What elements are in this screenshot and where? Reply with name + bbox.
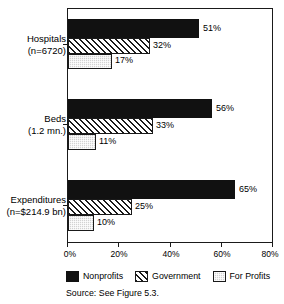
x-axis-tick-80 <box>272 243 273 247</box>
bar-value-beds-nonprofits: 56% <box>216 104 234 113</box>
x-axis-tick-60 <box>221 243 222 247</box>
legend-swatch-forprofits-icon <box>213 271 226 282</box>
category-label-line1: Expenditures <box>11 194 66 205</box>
bar-value-expenditures-forprofits: 10% <box>97 218 115 227</box>
category-label-line2: (n=$214.9 bn) <box>0 206 66 218</box>
bar-beds-forprofits <box>68 134 96 150</box>
bar-value-hospitals-government: 32% <box>153 41 171 50</box>
legend-label-government: Government <box>152 271 200 281</box>
category-label-line2: (n=6720) <box>0 45 66 57</box>
x-axis-tick-20 <box>118 243 119 247</box>
bar-value-beds-government: 33% <box>156 121 174 130</box>
category-label-expenditures: Expenditures (n=$214.9 bn) <box>0 194 66 217</box>
bar-value-beds-forprofits: 11% <box>99 137 116 146</box>
bar-value-expenditures-government: 25% <box>135 202 153 211</box>
chart-legend: Nonprofits Government For Profits <box>66 269 280 283</box>
category-label-hospitals: Hospitals (n=6720) <box>0 33 66 56</box>
bar-value-expenditures-nonprofits: 65% <box>239 185 257 194</box>
bar-value-hospitals-nonprofits: 51% <box>203 24 221 33</box>
legend-item-nonprofits: Nonprofits <box>66 271 123 282</box>
bar-beds-nonprofits <box>68 99 212 118</box>
bar-expenditures-forprofits <box>68 215 94 231</box>
x-axis-label-40: 40% <box>162 249 179 259</box>
category-label-line1: Beds <box>44 113 66 124</box>
source-note: Source: See Figure 5.3. <box>66 288 159 298</box>
legend-label-nonprofits: Nonprofits <box>83 271 123 281</box>
bar-beds-government <box>68 118 153 134</box>
legend-item-forprofits: For Profits <box>213 271 271 282</box>
bar-expenditures-nonprofits <box>68 180 235 199</box>
category-label-line1: Hospitals <box>27 33 66 44</box>
legend-swatch-nonprofits-icon <box>66 271 79 282</box>
bar-value-hospitals-forprofits: 17% <box>115 56 133 65</box>
x-axis-label-0: 0% <box>64 249 76 259</box>
bar-chart-figure: Hospitals (n=6720) 51% 32% 17% Beds (1.2… <box>0 0 284 304</box>
category-label-line2: (1.2 mn.) <box>0 125 66 137</box>
x-axis-tick-0 <box>67 243 68 247</box>
x-axis-label-60: 60% <box>213 249 230 259</box>
bar-hospitals-government <box>68 38 150 54</box>
bar-expenditures-government <box>68 199 132 215</box>
legend-label-forprofits: For Profits <box>230 271 271 281</box>
legend-swatch-government-icon <box>135 271 148 282</box>
legend-item-government: Government <box>135 271 200 282</box>
bar-hospitals-nonprofits <box>68 19 199 38</box>
bar-hospitals-forprofits <box>68 54 112 69</box>
x-axis-label-20: 20% <box>110 249 127 259</box>
x-axis-tick-40 <box>170 243 171 247</box>
x-axis-label-80: 80% <box>261 249 278 259</box>
category-label-beds: Beds (1.2 mn.) <box>0 113 66 136</box>
